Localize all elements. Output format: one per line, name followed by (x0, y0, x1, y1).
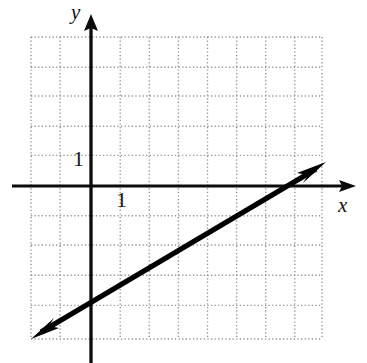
x-axis-unit-tick-label: 1 (116, 189, 127, 211)
coordinate-plane-figure: y x 1 1 (0, 0, 367, 363)
grid-horizontal-lines (31, 37, 322, 339)
y-axis-unit-tick-label: 1 (73, 148, 84, 170)
x-axis (12, 180, 356, 192)
y-axis (84, 14, 98, 363)
grid-lines (31, 37, 322, 339)
graph-canvas (0, 0, 367, 363)
x-axis-label: x (338, 195, 347, 216)
grid-vertical-lines (31, 37, 322, 339)
y-axis-label: y (71, 2, 80, 23)
